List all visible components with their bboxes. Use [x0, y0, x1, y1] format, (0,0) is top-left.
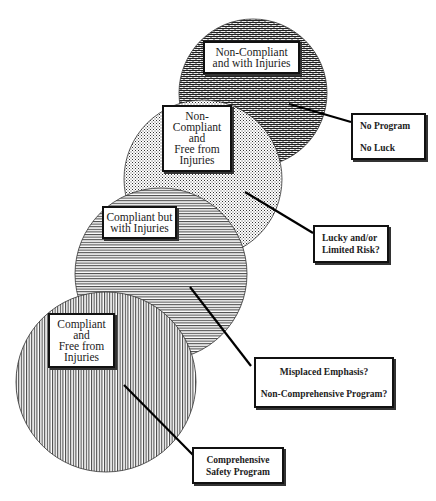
callout-line: Lucky and/or: [322, 232, 377, 244]
label-line: with Injuries: [110, 223, 168, 234]
callout-misplaced-emphasis: Misplaced Emphasis? Non-Comprehensive Pr…: [254, 357, 394, 408]
callout-line: Non-Comprehensive Program?: [261, 388, 388, 400]
callout-lucky-limited-risk: Lucky and/or Limited Risk?: [313, 225, 389, 263]
label-non-compliant-free-from-injuries: Non- Compliant and Free from Injuries: [162, 105, 232, 172]
label-non-compliant-with-injuries: Non-Compliant and with Injuries: [203, 41, 300, 74]
label-line: Compliant: [57, 319, 106, 330]
label-line: and: [73, 330, 90, 341]
label-line: Injuries: [64, 352, 99, 363]
label-line: Compliant but: [106, 212, 172, 223]
label-compliant-free-from-injuries: Compliant and Free from Injuries: [48, 313, 115, 368]
label-line: Injuries: [179, 155, 214, 166]
label-line: and with Injuries: [213, 58, 291, 69]
callout-line: Limited Risk?: [322, 244, 380, 256]
callout-no-program: No Program No Luck: [351, 113, 426, 160]
label-line: Non-Compliant: [215, 47, 287, 58]
callout-line: Misplaced Emphasis?: [280, 366, 368, 378]
label-compliant-with-injuries: Compliant but with Injuries: [102, 206, 177, 239]
callout-line: No Luck: [360, 142, 395, 154]
callout-comprehensive-safety-program: Comprehensive Safety Program: [192, 447, 284, 484]
callout-line: Comprehensive: [206, 454, 269, 466]
callout-line: No Program: [360, 120, 410, 132]
callout-line: Safety Program: [206, 466, 270, 478]
label-line: Free from: [59, 341, 105, 352]
